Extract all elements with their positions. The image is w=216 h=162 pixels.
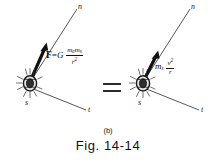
centripetal-mass-subscript: s bbox=[162, 65, 164, 71]
mass-s-subscript: s bbox=[80, 48, 82, 54]
gravitation-fraction: mems r2 bbox=[66, 47, 83, 66]
caption-part-label: (b) bbox=[0, 126, 216, 135]
centripetal-fraction: v2 r bbox=[166, 58, 174, 76]
right-axis-label-t: t bbox=[201, 106, 203, 114]
equals-sign bbox=[103, 82, 121, 94]
centripetal-denominator: r bbox=[166, 69, 174, 77]
left-tangent-axis-line bbox=[31, 88, 86, 110]
figure-number-caption: Fig. 14-14 bbox=[0, 138, 216, 153]
left-sun-core bbox=[26, 79, 33, 88]
centripetal-numerator: v2 bbox=[166, 58, 174, 68]
centripetal-equation: ms v2 r bbox=[155, 58, 175, 76]
gravitational-constant: G bbox=[57, 50, 64, 60]
right-axis-label-n: n bbox=[191, 3, 195, 11]
right-tangent-axis-line bbox=[144, 88, 199, 110]
gravitation-denominator: r2 bbox=[66, 56, 83, 66]
gravitation-equation: F=G mems r2 bbox=[46, 47, 83, 66]
left-body-label-s: s bbox=[25, 99, 28, 107]
right-sun-core bbox=[139, 79, 146, 88]
right-body-label-s: s bbox=[138, 99, 141, 107]
radius-exponent: 2 bbox=[74, 56, 77, 62]
velocity-exponent: 2 bbox=[171, 57, 174, 63]
gravitation-numerator: mems bbox=[66, 47, 83, 55]
left-axis-label-n: n bbox=[78, 3, 82, 11]
left-axis-label-t: t bbox=[88, 106, 90, 114]
